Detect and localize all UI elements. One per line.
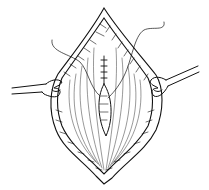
suture-line	[101, 56, 107, 84]
sac-shading	[100, 96, 108, 120]
central-opening	[99, 84, 111, 136]
retractor-right	[150, 66, 199, 97]
fat-layer-hatching	[56, 24, 154, 170]
surgical-illustration	[0, 0, 209, 190]
